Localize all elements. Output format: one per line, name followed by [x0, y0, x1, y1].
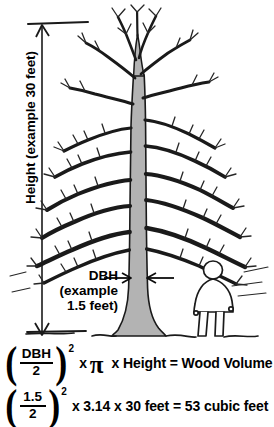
formula-tail: x Height = Wood Volume	[112, 355, 273, 371]
tree-volume-diagram: Height (example 30 feet) DBH (example 1.…	[0, 0, 274, 427]
dbh-label: DBH (example 1.5 feet)	[56, 268, 118, 313]
height-top-tick	[28, 22, 88, 24]
person-leg-right	[215, 312, 224, 336]
branch-left-1	[64, 128, 131, 151]
fraction-dbh-over-two: DBH 2	[19, 347, 54, 378]
fraction-denominator: 2	[33, 364, 41, 378]
formula-general: ( DBH 2 ) 2 x π x Height = Wood Volume	[0, 341, 274, 384]
fraction-onefive-over-two: 1.5 2	[19, 390, 47, 421]
dbh-label-line1: DBH	[56, 268, 118, 283]
height-bottom-tick	[27, 331, 86, 332]
person-head	[204, 261, 223, 279]
branch-crown-right-3	[143, 82, 209, 98]
formula-block: ( DBH 2 ) 2 x π x Height = Wood Volume (…	[0, 341, 274, 427]
multiply-operator: x	[79, 355, 87, 371]
branch-crown-left-3	[70, 88, 133, 104]
branch-crown-left-2	[86, 43, 135, 78]
close-paren-icon: )	[55, 347, 67, 379]
fraction-denominator: 2	[29, 407, 37, 421]
formula-example-tail: x 3.14 x 30 feet = 53 cubic feet	[72, 398, 268, 414]
ground-line-mid-right	[166, 335, 196, 337]
fraction-numerator: 1.5	[21, 390, 44, 404]
branch-right-2	[145, 146, 225, 177]
pi-icon: π	[90, 352, 104, 377]
person-leg-left	[198, 312, 208, 336]
open-paren-icon: (	[5, 347, 17, 379]
person-figure	[194, 261, 233, 336]
ground-line-left	[26, 333, 74, 334]
formula-example: ( 1.5 2 ) 2 x 3.14 x 30 feet = 53 cubic …	[0, 384, 274, 427]
branch-left-5	[37, 232, 130, 266]
branch-crown-left-1	[118, 17, 136, 60]
exponent-two: 2	[69, 343, 75, 354]
open-paren-icon: (	[5, 390, 17, 422]
person-hand-right	[229, 307, 233, 311]
close-paren-icon: )	[48, 390, 60, 422]
height-label: Height (example 30 feet)	[23, 28, 38, 228]
person-body-cape	[194, 279, 233, 312]
exponent-two: 2	[61, 386, 67, 397]
person-hand-left	[194, 311, 198, 315]
branch-left-2	[55, 152, 131, 177]
branch-right-1	[145, 120, 215, 148]
fraction-numerator: DBH	[20, 347, 53, 361]
dbh-label-line3: 1.5 feet)	[56, 298, 118, 313]
dbh-label-line2: (example	[56, 283, 118, 298]
branch-crown-right-2	[141, 40, 190, 74]
tree-figure	[10, 5, 268, 336]
ground-line-right	[224, 336, 258, 337]
branch-crown-right-1	[139, 16, 156, 58]
